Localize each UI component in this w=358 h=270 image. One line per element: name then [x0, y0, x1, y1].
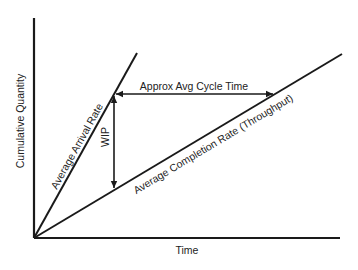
x-axis-label: Time	[176, 244, 199, 256]
cycle-time-label: Approx Avg Cycle Time	[140, 80, 249, 92]
wip-label: WIP	[99, 127, 111, 147]
cumulative-flow-diagram: Cumulative Quantity Time Average Arrival…	[0, 0, 358, 270]
arrival-rate-label: Average Arrival Rate	[48, 101, 105, 191]
y-axis-label: Cumulative Quantity	[14, 73, 26, 168]
diagram-svg: Cumulative Quantity Time Average Arrival…	[0, 0, 358, 270]
completion-rate-label: Average Completion Rate (Throughput)	[131, 91, 295, 196]
arrival-rate-line	[34, 53, 137, 238]
